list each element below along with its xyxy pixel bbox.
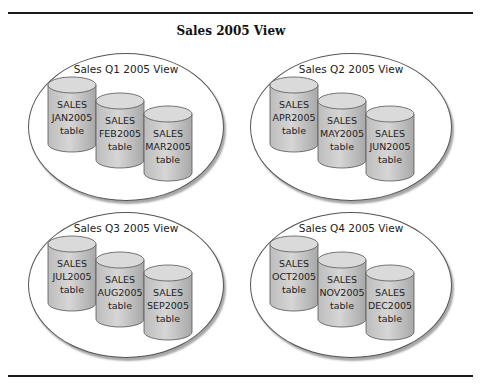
table-label-line3: table <box>317 140 367 153</box>
table-label-line3: table <box>47 283 97 296</box>
table-label: SALES MAY2005 table <box>317 114 367 153</box>
view-group-q3: Sales Q3 2005 View SALES JUL2005 table S… <box>28 212 224 358</box>
table-label-line2: NOV2005 <box>317 286 367 299</box>
table-label-line1: SALES <box>47 98 97 111</box>
table-label-line2: SEP2005 <box>143 299 193 312</box>
table-label-line1: SALES <box>269 98 319 111</box>
table-cylinder: SALES JAN2005 table <box>47 76 97 154</box>
table-label-line3: table <box>269 283 319 296</box>
table-label-line2: AUG2005 <box>95 286 145 299</box>
table-label: SALES MAR2005 table <box>143 127 193 166</box>
table-cylinder: SALES SEP2005 table <box>143 264 193 342</box>
table-label-line3: table <box>365 153 415 166</box>
table-label-line2: APR2005 <box>269 111 319 124</box>
table-label: SALES OCT2005 table <box>269 257 319 296</box>
table-cylinder: SALES DEC2005 table <box>365 264 415 342</box>
view-group-label: Sales Q4 2005 View <box>251 222 451 234</box>
bottom-rule <box>8 375 473 377</box>
table-label: SALES JUL2005 table <box>47 257 97 296</box>
table-label-line1: SALES <box>365 286 415 299</box>
table-cylinder: SALES NOV2005 table <box>317 251 367 329</box>
view-group-label: Sales Q1 2005 View <box>29 63 223 75</box>
view-group-q1: Sales Q1 2005 View SALES JAN2005 table S… <box>28 53 224 201</box>
table-label-line1: SALES <box>317 114 367 127</box>
table-label-line3: table <box>269 124 319 137</box>
top-rule <box>8 12 473 14</box>
table-label-line1: SALES <box>143 286 193 299</box>
diagram-title: Sales 2005 View <box>0 24 462 38</box>
table-label: SALES AUG2005 table <box>95 273 145 312</box>
table-label-line1: SALES <box>95 114 145 127</box>
table-label-line1: SALES <box>365 127 415 140</box>
table-label-line2: JUL2005 <box>47 270 97 283</box>
table-label: SALES SEP2005 table <box>143 286 193 325</box>
table-label-line3: table <box>47 124 97 137</box>
table-label-line3: table <box>143 153 193 166</box>
table-label-line2: MAR2005 <box>143 140 193 153</box>
table-cylinder: SALES OCT2005 table <box>269 235 319 313</box>
table-label-line2: FEB2005 <box>95 127 145 140</box>
table-label: SALES FEB2005 table <box>95 114 145 153</box>
table-label-line1: SALES <box>317 273 367 286</box>
table-label-line1: SALES <box>269 257 319 270</box>
table-label-line1: SALES <box>47 257 97 270</box>
view-group-q4: Sales Q4 2005 View SALES OCT2005 table S… <box>250 212 452 358</box>
view-group-label: Sales Q3 2005 View <box>29 222 223 234</box>
table-label-line2: DEC2005 <box>365 299 415 312</box>
table-label-line3: table <box>95 140 145 153</box>
table-cylinder: SALES MAR2005 table <box>143 105 193 183</box>
table-label: SALES JUN2005 table <box>365 127 415 166</box>
view-group-label: Sales Q2 2005 View <box>251 63 451 75</box>
table-cylinder: SALES JUN2005 table <box>365 105 415 183</box>
table-label-line2: JAN2005 <box>47 111 97 124</box>
view-group-q2: Sales Q2 2005 View SALES APR2005 table S… <box>250 53 452 201</box>
table-label-line3: table <box>95 299 145 312</box>
table-label-line1: SALES <box>95 273 145 286</box>
table-label-line3: table <box>317 299 367 312</box>
table-label: SALES APR2005 table <box>269 98 319 137</box>
table-cylinder: SALES APR2005 table <box>269 76 319 154</box>
table-label-line2: JUN2005 <box>365 140 415 153</box>
table-label: SALES JAN2005 table <box>47 98 97 137</box>
table-label-line1: SALES <box>143 127 193 140</box>
table-cylinder: SALES FEB2005 table <box>95 92 145 170</box>
table-cylinder: SALES JUL2005 table <box>47 235 97 313</box>
table-label-line3: table <box>143 312 193 325</box>
table-cylinder: SALES MAY2005 table <box>317 92 367 170</box>
table-label-line3: table <box>365 312 415 325</box>
table-cylinder: SALES AUG2005 table <box>95 251 145 329</box>
table-label-line2: OCT2005 <box>269 270 319 283</box>
table-label-line2: MAY2005 <box>317 127 367 140</box>
table-label: SALES NOV2005 table <box>317 273 367 312</box>
table-label: SALES DEC2005 table <box>365 286 415 325</box>
